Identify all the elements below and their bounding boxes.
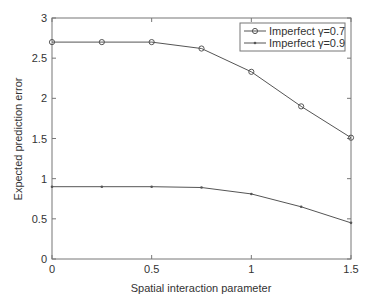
x-tick-label: 0.5: [144, 263, 159, 275]
x-axis-label: Spatial interaction parameter: [131, 282, 272, 294]
y-tick-label: 2: [41, 92, 47, 104]
y-tick-label: 3: [41, 12, 47, 24]
legend-label: Imperfect γ=0.9: [269, 37, 345, 49]
point-marker: [250, 193, 253, 196]
y-tick-label: 1: [41, 173, 47, 185]
x-tick-label: 1: [248, 263, 254, 275]
legend-label: Imperfect γ=0.7: [269, 25, 345, 37]
y-tick-label: 0.5: [32, 213, 47, 225]
line-chart: 00.511.522.53 00.511.5 Spatial interacti…: [0, 0, 374, 303]
point-marker: [101, 185, 104, 188]
y-tick-label: 0: [41, 253, 47, 265]
y-axis-label: Expected prediction error: [12, 77, 24, 200]
point-marker: [300, 205, 303, 208]
point-marker: [254, 42, 257, 45]
point-marker: [150, 185, 153, 188]
point-marker: [200, 186, 203, 189]
point-marker: [51, 185, 54, 188]
point-marker: [350, 222, 353, 225]
y-tick-label: 2.5: [32, 52, 47, 64]
y-tick-label: 1.5: [32, 133, 47, 145]
plot-area: [52, 18, 351, 259]
legend: Imperfect γ=0.7Imperfect γ=0.9: [240, 23, 345, 51]
x-tick-label: 0: [49, 263, 55, 275]
x-tick-label: 1.5: [343, 263, 358, 275]
